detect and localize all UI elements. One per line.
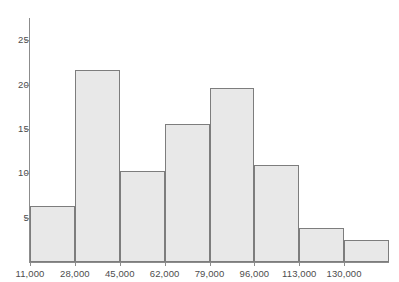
histogram-bar: [120, 171, 165, 262]
x-axis-tick-label: 96,000: [240, 268, 270, 279]
histogram-chart: 510152025 11,00028,00045,00062,00079,000…: [0, 0, 399, 282]
histogram-bar: [254, 165, 299, 262]
x-axis-tick-label: 113,000: [282, 268, 316, 279]
histogram-bar: [165, 124, 210, 262]
bar-group: [30, 18, 389, 262]
x-axis-tick-label: 62,000: [150, 268, 180, 279]
histogram-bar: [75, 70, 120, 262]
x-axis-tick-mark: [120, 262, 121, 266]
y-axis-tick-mark: [25, 173, 29, 174]
y-axis-tick-mark: [25, 40, 29, 41]
x-axis-tick-label: 28,000: [60, 268, 90, 279]
x-axis-tick-mark: [75, 262, 76, 266]
x-axis-tick-mark: [299, 262, 300, 266]
y-axis-tick-group: 510152025: [0, 0, 29, 282]
x-axis-tick-mark: [30, 262, 31, 266]
x-axis-tick-mark: [344, 262, 345, 266]
y-axis-tick-mark: [25, 218, 29, 219]
x-axis-tick-label: 11,000: [16, 268, 45, 279]
histogram-bar: [344, 240, 389, 262]
x-axis-tick-mark: [165, 262, 166, 266]
histogram-bar: [299, 228, 344, 262]
x-axis-tick-label: 79,000: [195, 268, 225, 279]
x-axis-tick-mark: [210, 262, 211, 266]
x-axis-tick-label: 45,000: [105, 268, 135, 279]
y-axis-tick-mark: [25, 85, 29, 86]
x-axis-tick-label: 130,000: [327, 268, 362, 279]
x-axis-tick-mark: [254, 262, 255, 266]
y-axis-tick-mark: [25, 129, 29, 130]
histogram-bar: [210, 88, 255, 262]
histogram-bar: [30, 206, 75, 262]
x-axis-line: [29, 262, 389, 263]
